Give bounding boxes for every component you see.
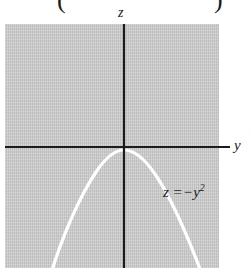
equation-minus-sign: − — [183, 184, 193, 200]
curve-equation-label: z =−y2 — [163, 185, 205, 200]
parabola-figure: ( ) z y z =−y2 — [0, 0, 251, 277]
equation-variable: y — [193, 184, 200, 200]
equation-lhs: z = — [163, 184, 183, 200]
equation-exponent: 2 — [200, 182, 205, 193]
parabola-curve — [50, 150, 203, 277]
y-axis-label: y — [234, 138, 241, 153]
z-axis-label: z — [118, 6, 123, 20]
plot-canvas — [0, 0, 251, 277]
